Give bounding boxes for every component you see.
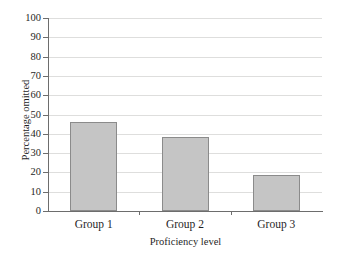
y-tick-10 [43,192,48,193]
y-axis-title-holder: Percentage omitted [8,18,22,211]
y-tick-20 [43,172,48,173]
x-axis-title: Proficiency level [48,235,323,248]
gridline-80 [48,57,322,58]
x-axis-spine [48,211,323,212]
bar-group-1 [70,122,117,211]
bar-chart-figure: 0102030405060708090100 Group 1Group 2Gro… [0,0,340,267]
gridline-70 [48,76,322,77]
bar-group-2 [162,137,209,211]
y-tick-30 [43,153,48,154]
y-tick-80 [43,57,48,58]
gridline-50 [48,115,322,116]
y-tick-70 [43,76,48,77]
bar-group-3 [253,175,300,211]
x-tick-label-group-3: Group 3 [230,217,322,231]
y-tick-100 [43,18,48,19]
x-tick-1 [139,211,140,215]
gridline-60 [48,95,322,96]
y-tick-60 [43,95,48,96]
y-tick-0 [43,211,48,212]
x-tick-2 [231,211,232,215]
x-tick-label-group-1: Group 1 [48,217,140,231]
gridline-90 [48,37,322,38]
y-tick-40 [43,134,48,135]
y-tick-50 [43,115,48,116]
y-axis-spine [48,18,49,212]
y-tick-90 [43,37,48,38]
gridline-100 [48,18,322,19]
y-axis-title: Percentage omitted [20,60,32,180]
x-tick-label-group-2: Group 2 [139,217,231,231]
